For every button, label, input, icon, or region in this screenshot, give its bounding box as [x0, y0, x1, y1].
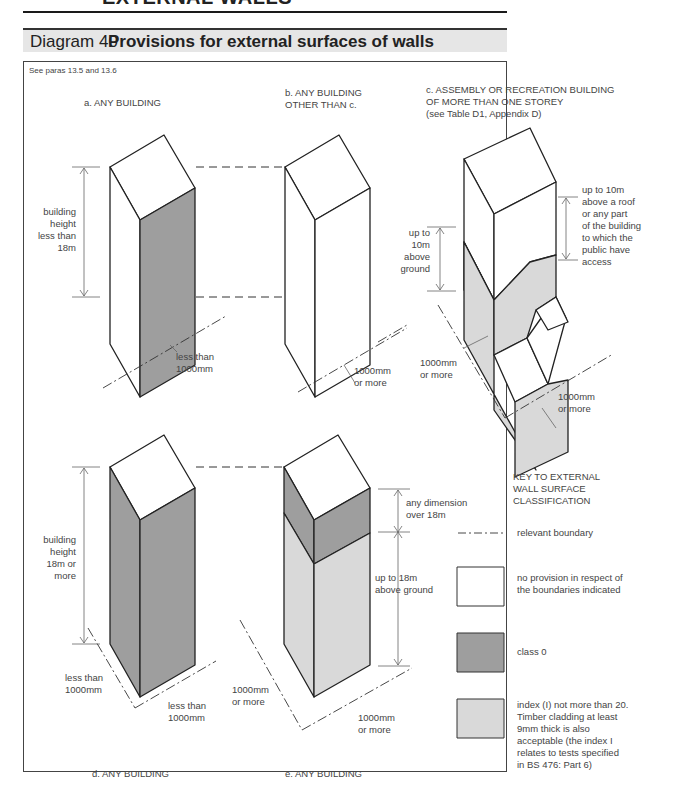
distance-label-b: 1000mm or more — [354, 365, 391, 389]
distance-label-e-right: 1000mm or more — [358, 712, 395, 736]
key-label-index: index (I) not more than 20. Timber cladd… — [517, 699, 628, 771]
key-title: KEY TO EXTERNAL WALL SURFACE CLASSIFICAT… — [513, 471, 600, 507]
caption-a: a. ANY BUILDING — [84, 97, 161, 109]
key-index-swatch — [457, 699, 504, 738]
distance-label-d-right: less than 1000mm — [168, 700, 206, 724]
key-label-boundary: relevant boundary — [517, 527, 593, 539]
distance-label-c-left: 1000mm or more — [420, 357, 457, 381]
building-e — [284, 435, 370, 697]
caption-d: d. ANY BUILDING — [92, 768, 169, 780]
key-label-class0: class 0 — [517, 646, 547, 658]
caption-c: c. ASSEMBLY OR RECREATION BUILDING OF MO… — [426, 84, 614, 120]
distance-label-c-right: 1000mm or more — [558, 391, 595, 415]
height-label-c-left: up to 10m above ground — [394, 227, 430, 275]
key-class0-swatch — [457, 633, 504, 672]
height-label-c-right: up to 10m above a roof or any part of th… — [582, 184, 641, 268]
distance-label-e-left: 1000mm or more — [232, 684, 269, 708]
caption-b: b. ANY BUILDING OTHER THAN c. — [285, 87, 362, 111]
height-label-d: building height 18m or more — [30, 534, 76, 582]
lower-label-e: up to 18m above ground — [375, 572, 433, 596]
key-no-provision-swatch — [457, 567, 504, 606]
caption-e: e. ANY BUILDING — [285, 768, 362, 780]
height-label-a: building height less than 18m — [34, 206, 76, 254]
upper-label-e: any dimension over 18m — [406, 497, 467, 521]
key-label-no-provision: no provision in respect of the boundarie… — [517, 572, 623, 596]
distance-label-d-left: less than 1000mm — [65, 672, 103, 696]
distance-label-a: less than 1000mm — [176, 351, 214, 375]
building-c — [464, 128, 568, 477]
building-d — [110, 435, 195, 697]
